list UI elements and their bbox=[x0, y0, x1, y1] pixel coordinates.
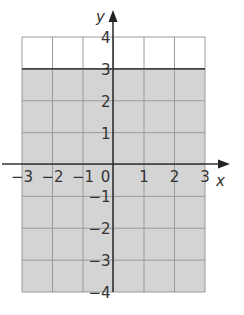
x-tick-label: 1 bbox=[139, 168, 149, 186]
y-tick-label: −1 bbox=[88, 188, 110, 206]
x-tick-label: −3 bbox=[11, 168, 33, 186]
y-tick-label: −4 bbox=[88, 284, 110, 302]
x-axis-label: x bbox=[215, 172, 225, 190]
y-axis-label: y bbox=[95, 8, 106, 26]
x-tick-label: 3 bbox=[200, 168, 210, 186]
y-axis-arrow-icon bbox=[109, 10, 118, 22]
y-tick-label: 4 bbox=[101, 29, 111, 47]
x-axis-arrow-icon bbox=[218, 160, 230, 169]
x-tick-label: 0 bbox=[101, 168, 111, 186]
graph: y x −3−2−10123 4321−1−2−3−4 bbox=[0, 0, 244, 315]
y-tick-label: −3 bbox=[88, 252, 110, 270]
x-tick-label: 2 bbox=[170, 168, 180, 186]
y-tick-label: −2 bbox=[88, 220, 110, 238]
y-tick-label: 1 bbox=[101, 125, 111, 143]
x-tick-label: −1 bbox=[72, 168, 94, 186]
x-tick-label: −2 bbox=[41, 168, 63, 186]
y-tick-label: 3 bbox=[101, 61, 111, 79]
y-tick-label: 2 bbox=[101, 93, 111, 111]
